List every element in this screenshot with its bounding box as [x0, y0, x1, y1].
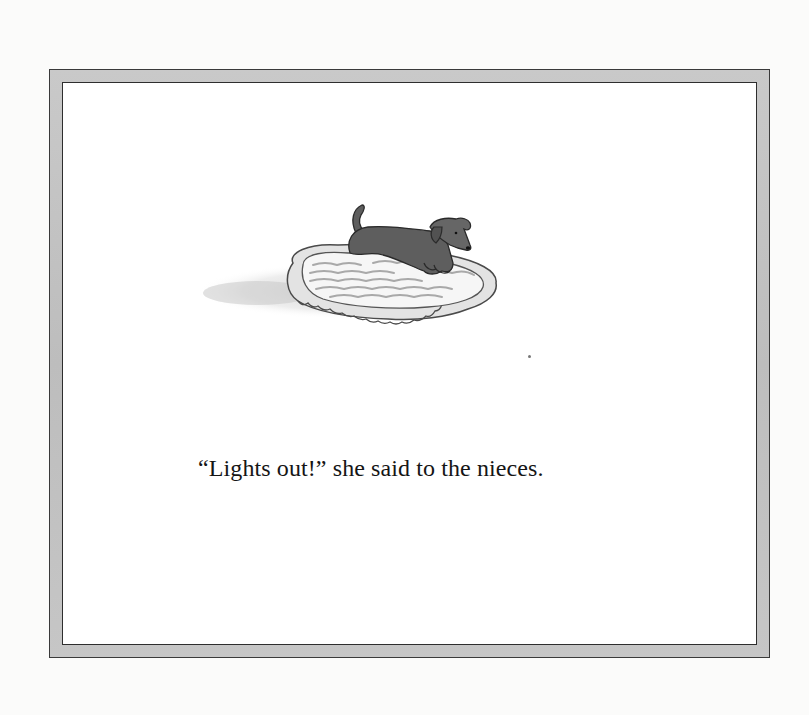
picture-frame-border: “Lights out!” she said to the nieces. [49, 69, 770, 658]
story-caption: “Lights out!” she said to the nieces. [198, 455, 618, 482]
picture-panel: “Lights out!” she said to the nieces. [62, 82, 757, 645]
dog-on-pillow-illustration [198, 193, 538, 343]
speck-mark [528, 355, 531, 358]
storybook-page: “Lights out!” she said to the nieces. [0, 0, 809, 715]
